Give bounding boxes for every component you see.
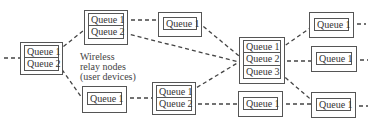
relay-node-e: Queue 1 Queue 2 [152, 82, 196, 115]
queue-box: Queue 2 [243, 53, 281, 66]
relay-node-a: Queue 1 Queue 2 [20, 42, 63, 75]
queue-box: Queue 2 [88, 26, 124, 39]
queue-box: Queue 1 [316, 52, 352, 65]
queue-box: Queue 1 [316, 98, 351, 111]
relay-network-diagram: Queue 1 Queue 2 Queue 1 Queue 2 Queue 1 … [0, 0, 372, 127]
queue-box: Queue 1 [88, 13, 124, 26]
queue-box: Queue 1 [156, 85, 192, 98]
relay-node-b: Queue 1 Queue 2 [84, 10, 128, 45]
queue-box: Queue 2 [156, 98, 192, 111]
queue-box: Queue 1 [314, 18, 349, 31]
queue-box: Queue 1 [243, 40, 281, 53]
queue-box: Queue 1 [87, 92, 122, 105]
queue-box: Queue 1 [243, 97, 278, 110]
relay-node-j: Queue 1 [238, 91, 283, 117]
queue-box: Queue 1 [24, 45, 59, 58]
queue-box: Queue 2 [24, 58, 59, 71]
queue-box: Queue 3 [243, 66, 281, 79]
label-line: (user devices) [80, 72, 136, 82]
relay-nodes-label: Wireless relay nodes (user devices) [80, 52, 136, 82]
relay-node-i: Queue 1 [311, 92, 356, 118]
relay-node-c: Queue 1 [158, 12, 202, 37]
queue-box: Queue 1 [163, 17, 197, 30]
relay-node-h: Queue 1 [311, 46, 357, 72]
relay-node-g: Queue 1 [309, 12, 354, 38]
relay-node-f: Queue 1 Queue 2 Queue 3 [239, 37, 285, 84]
relay-node-d: Queue 1 [82, 86, 127, 113]
